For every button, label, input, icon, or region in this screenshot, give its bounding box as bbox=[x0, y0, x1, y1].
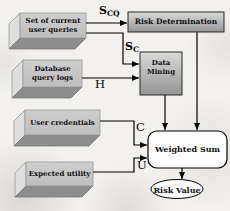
node-user-credentials-label: User credentials bbox=[25, 118, 100, 127]
node-risk-value-label: Risk Value bbox=[151, 185, 203, 196]
edge-label-scq-sub: CQ bbox=[107, 9, 120, 18]
box-bottom-face bbox=[9, 38, 86, 49]
node-expected-utility-label: Expected utility bbox=[26, 169, 93, 178]
edge-label-scq: SCQ bbox=[99, 5, 119, 18]
node-database-logs-label: Database query logs bbox=[23, 64, 82, 83]
edge-label-scq-base: S bbox=[99, 4, 107, 17]
node-expected-utility-box bbox=[15, 162, 93, 197]
edge-label-c: C bbox=[136, 122, 145, 134]
edge-label-h: H bbox=[95, 79, 105, 91]
diagram-canvas: Set of current user queries Database que… bbox=[0, 0, 230, 211]
box-bottom-face bbox=[12, 87, 82, 98]
edge-label-u: U bbox=[137, 160, 147, 172]
edge-label-sc-base: S bbox=[125, 40, 133, 53]
edge-label-sc: SC bbox=[125, 41, 139, 54]
edge-label-sc-sub: C bbox=[133, 45, 139, 54]
node-weighted-sum-label: Weighted Sum bbox=[148, 144, 227, 155]
box-bottom-face bbox=[14, 135, 100, 146]
node-risk-determination-label: Risk Determination bbox=[128, 17, 224, 27]
node-user-queries-label: Set of current user queries bbox=[20, 16, 86, 35]
node-data-mining-label: Data Mining bbox=[140, 58, 182, 77]
box-bottom-face bbox=[15, 186, 93, 197]
node-user-credentials-box bbox=[14, 110, 100, 146]
